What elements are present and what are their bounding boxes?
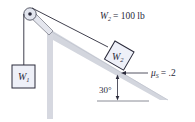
friction-label: μS= .2 [150,68,176,79]
pulley-incline-diagram: W1 W2 W2= 100 lb μS= .2 30° [0,0,195,122]
angle-arrowhead-down-icon [116,96,120,101]
pulley-axle-icon [28,12,32,16]
support-post [47,33,53,119]
angle-label: 30° [99,85,112,95]
weight-label: W2= 100 lb [100,11,145,22]
